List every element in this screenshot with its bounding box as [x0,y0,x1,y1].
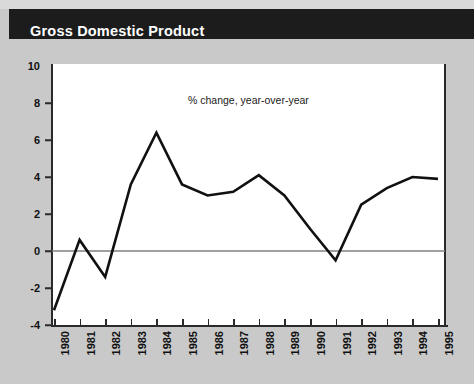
x-tick-mark [259,319,261,326]
x-tick-mark [156,319,158,326]
x-tick-mark [208,319,210,326]
chart-annotation: % change, year-over-year [188,94,309,106]
y-tick-label: 2 [10,208,40,220]
x-tick-mark [412,319,414,326]
y-tick-mark [45,176,51,178]
x-tick-mark [284,319,286,326]
x-tick-label: 1982 [110,331,122,355]
x-tick-label: 1990 [315,331,327,355]
y-tick-label: -4 [10,319,40,331]
y-tick-label: 4 [10,171,40,183]
x-tick-mark [54,319,56,326]
x-tick-label: 1984 [161,331,173,355]
y-tick-label: 8 [10,97,40,109]
x-tick-mark [336,319,338,326]
x-tick-mark [131,319,133,326]
y-tick-mark [45,287,51,289]
y-tick-mark [45,102,51,104]
y-tick-label: 10 [10,60,40,72]
x-tick-mark [361,319,363,326]
x-tick-mark [387,319,389,326]
x-tick-label: 1981 [85,331,97,355]
x-tick-mark [233,319,235,326]
y-tick-label: -2 [10,282,40,294]
y-axis-line [51,64,53,327]
top-strip [0,0,474,9]
chart-page: Gross Domestic Product 1086420-2-4 19801… [0,0,474,384]
x-tick-label: 1980 [59,331,71,355]
page-title: Gross Domestic Product [30,23,204,39]
x-tick-label: 1989 [289,331,301,355]
x-tick-mark [80,319,82,326]
y-tick-mark [45,324,51,326]
x-tick-mark [310,319,312,326]
x-tick-label: 1988 [264,331,276,355]
x-axis-line [51,325,448,327]
x-tick-mark [182,319,184,326]
x-tick-label: 1991 [341,331,353,355]
x-tick-label: 1983 [136,331,148,355]
x-tick-mark [438,319,440,326]
x-tick-label: 1992 [366,331,378,355]
x-tick-label: 1985 [187,331,199,355]
header-bar: Gross Domestic Product [9,9,474,39]
y-tick-label: 6 [10,134,40,146]
y-tick-mark [45,139,51,141]
x-tick-label: 1993 [392,331,404,355]
x-tick-label: 1995 [443,331,455,355]
x-tick-label: 1986 [213,331,225,355]
x-tick-label: 1994 [417,331,429,355]
y-tick-label: 0 [10,245,40,257]
x-tick-label: 1987 [238,331,250,355]
y-tick-mark [45,250,51,252]
y-tick-mark [45,213,51,215]
x-tick-mark [105,319,107,326]
